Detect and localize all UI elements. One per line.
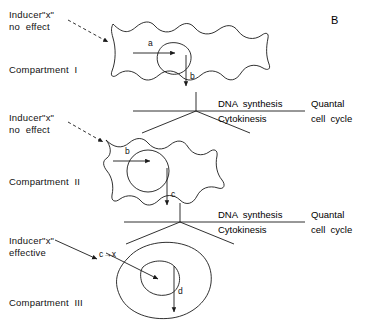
inducer-label-1-line2: no effect	[9, 21, 50, 33]
cell-compartment-1	[68, 20, 270, 86]
inducer-label-3-line2: effective	[9, 247, 46, 259]
divider-1-numerator: DNA synthesis	[218, 98, 282, 109]
panel-label-b: B	[331, 14, 338, 26]
figure-canvas: B Inducer"x" no effect Compartment I a b…	[0, 0, 368, 329]
inducer-label-1-line1: Inducer"x"	[9, 9, 54, 21]
inducer-label-2-line2: no effect	[9, 124, 50, 136]
arrow-label-b-2: b	[125, 147, 130, 156]
arrow-label-a: a	[148, 39, 153, 48]
compartment-label-2: Compartment II	[9, 176, 80, 188]
arrow-label-c: c	[171, 190, 175, 199]
arrow-label-d: d	[178, 287, 183, 296]
inducer-label-3-line1: Inducer"x"	[9, 235, 54, 247]
divider-2-caption-line2: cell cycle	[311, 224, 352, 236]
divider-2-denominator: Cytokinesis	[218, 224, 267, 235]
cell-compartment-2	[68, 122, 224, 205]
divider-1-caption-line1: Quantal	[311, 98, 344, 110]
diagram-svg	[0, 0, 368, 329]
arrow-label-b-1: b	[190, 72, 195, 81]
divider-2-numerator: DNA synthesis	[218, 209, 282, 220]
divider-1-caption-line2: cell cycle	[311, 113, 352, 125]
divider-1-denominator: Cytokinesis	[218, 113, 267, 124]
compartment-label-3: Compartment III	[9, 297, 83, 309]
arrow-label-c-to-x: c→x	[99, 250, 116, 259]
compartment-label-1: Compartment I	[9, 64, 77, 76]
inducer-label-2-line1: Inducer"x"	[9, 112, 54, 124]
divider-2-caption-line1: Quantal	[311, 209, 344, 221]
